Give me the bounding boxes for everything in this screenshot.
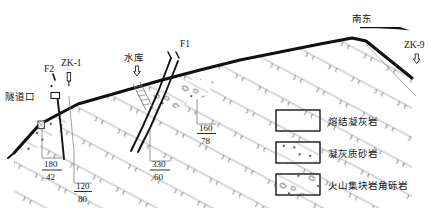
dip-180-42-strike: 180 xyxy=(44,159,58,169)
label-reservoir: 水库 xyxy=(124,52,144,63)
legend-label-volcanic-agglomerate: 火山集块岩角砾岩 xyxy=(328,180,408,191)
legend-swatch-welded-tuff xyxy=(277,111,319,130)
fault-f2-dot xyxy=(50,85,52,87)
borehole-zk1-symbol xyxy=(67,73,70,87)
dip-180-42-dip: 42 xyxy=(46,172,55,182)
borehole-zk9-symbol xyxy=(413,54,420,64)
legend-label-tuffaceous-sandstone: 凝灰质砂岩 xyxy=(328,148,378,159)
dip-160-78-dip: 78 xyxy=(201,136,211,146)
legend-swatch-tuffaceous-sandstone xyxy=(277,143,319,162)
dip-330-60-dip: 60 xyxy=(154,172,164,182)
label-borehole-zk9: ZK-9 xyxy=(404,40,425,50)
label-fault-f1: F1 xyxy=(180,39,190,49)
legend-swatch-volcanic-agglomerate xyxy=(277,175,319,194)
southeast-arrow-icon xyxy=(360,27,410,31)
geological-cross-section-figure: 隧道口 F2 ZK-1 水库 F1 南东 ZK-9 180 42 120 80 … xyxy=(0,0,446,208)
reservoir-arrow-icon xyxy=(134,66,141,76)
dip-160-78-strike: 160 xyxy=(199,123,213,133)
dip-330-60-strike: 330 xyxy=(152,159,166,169)
tunnel-portal-symbol xyxy=(51,93,60,99)
fault-f1-tick-b xyxy=(176,52,179,58)
slope-toe-line xyxy=(8,153,14,158)
cross-section-canvas: 隧道口 F2 ZK-1 水库 F1 南东 ZK-9 180 42 120 80 … xyxy=(0,0,446,208)
tunnel-section-marker xyxy=(38,121,45,129)
dip-120-80-strike: 120 xyxy=(76,181,90,191)
fault-f1-tick-a xyxy=(168,52,171,58)
legend-label-welded-tuff: 熔结凝灰岩 xyxy=(328,116,378,127)
label-borehole-zk1: ZK-1 xyxy=(61,58,82,68)
dip-120-80-dip: 80 xyxy=(78,194,88,204)
label-tunnel-portal: 隧道口 xyxy=(5,91,35,102)
label-fault-f2: F2 xyxy=(44,64,54,74)
fault-f2-tick xyxy=(53,74,55,80)
label-southeast: 南东 xyxy=(352,13,372,24)
